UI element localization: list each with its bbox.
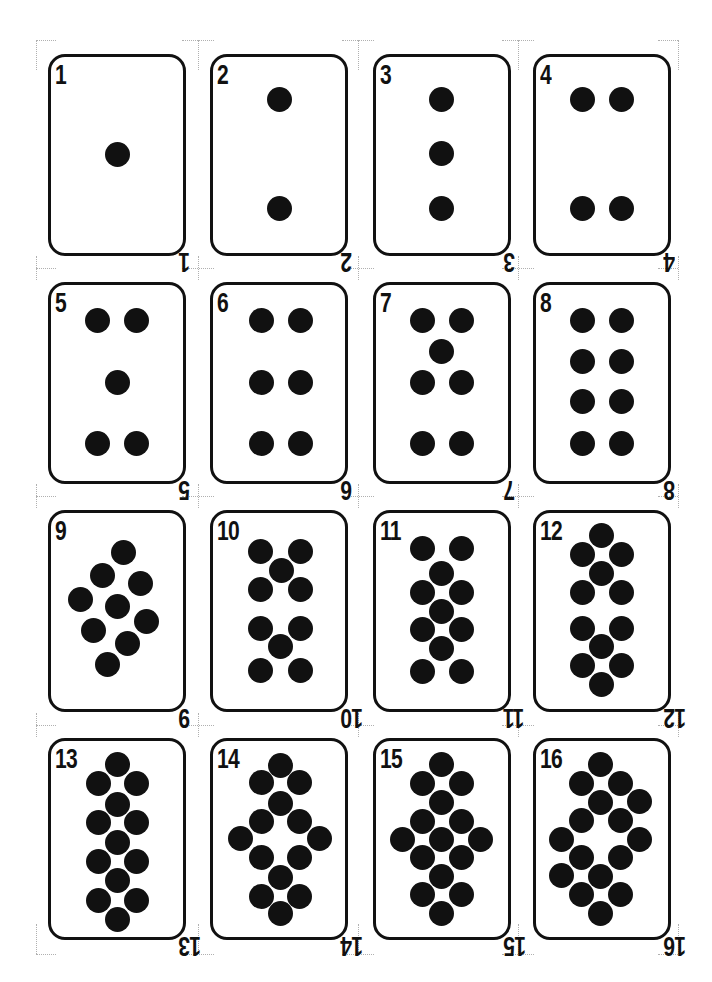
pip-dot-icon [287, 809, 312, 834]
pip-dot-icon [410, 580, 435, 605]
crop-mark [518, 40, 519, 70]
pip-dot-icon [429, 196, 454, 221]
card-index-top: 4 [540, 62, 551, 89]
pip-dot-icon [268, 865, 293, 890]
pip-dot-icon [269, 558, 294, 583]
card-5: 55 [48, 282, 186, 484]
pip-dot-icon [128, 571, 153, 596]
crop-mark [358, 40, 359, 70]
pip-dot-icon [410, 882, 435, 907]
pip-dot-icon [68, 587, 93, 612]
pip-dot-icon [86, 771, 111, 796]
pip-dot-icon [105, 752, 130, 777]
pip-dot-icon [248, 539, 273, 564]
pip-dot-icon [449, 370, 474, 395]
pip-dot-icon [248, 577, 273, 602]
card-index-bottom: 10 [341, 704, 363, 731]
card-index-top: 12 [540, 518, 562, 545]
pip-dot-icon [608, 882, 633, 907]
pip-dot-icon [90, 563, 115, 588]
pip-dot-icon [249, 809, 274, 834]
pip-dot-icon [287, 770, 312, 795]
pip-dot-icon [288, 431, 313, 456]
crop-mark [502, 40, 534, 41]
crop-mark [678, 484, 679, 508]
pip-dot-icon [429, 87, 454, 112]
crop-mark [342, 40, 374, 41]
card-6: 66 [210, 282, 348, 484]
pip-dot-icon [85, 431, 110, 456]
pip-dot-icon [609, 87, 634, 112]
pip-dot-icon [390, 827, 415, 852]
pip-dot-icon [267, 87, 292, 112]
card-index-top: 13 [55, 746, 77, 773]
pip-dot-icon [429, 827, 454, 852]
pip-dot-icon [449, 659, 474, 684]
pip-dot-icon [570, 389, 595, 414]
card-index-bottom: 9 [179, 704, 190, 731]
pip-dot-icon [115, 631, 140, 656]
pip-dot-icon [249, 370, 274, 395]
card-index-top: 8 [540, 290, 551, 317]
card-index-bottom: 12 [664, 704, 686, 731]
pip-dot-icon [249, 845, 274, 870]
crop-mark [658, 40, 678, 41]
pip-dot-icon [105, 594, 130, 619]
card-index-top: 7 [380, 290, 391, 317]
pip-dot-icon [410, 617, 435, 642]
card-index-top: 15 [380, 746, 402, 773]
crop-mark [678, 256, 679, 280]
crop-mark [678, 40, 679, 70]
pip-dot-icon [410, 809, 435, 834]
card-7: 77 [373, 282, 511, 484]
pip-dot-icon [288, 658, 313, 683]
pip-dot-icon [105, 830, 130, 855]
pip-dot-icon [429, 790, 454, 815]
card-index-bottom: 4 [664, 248, 675, 275]
pip-dot-icon [111, 540, 136, 565]
pip-dot-icon [124, 888, 149, 913]
pip-dot-icon [588, 790, 613, 815]
card-index-bottom: 14 [341, 932, 363, 959]
card-index-bottom: 3 [504, 248, 515, 275]
pip-dot-icon [85, 308, 110, 333]
crop-mark [36, 725, 56, 726]
crop-mark [36, 496, 56, 497]
pip-dot-icon [609, 653, 634, 678]
pip-dot-icon [608, 845, 633, 870]
card-index-bottom: 11 [504, 704, 525, 731]
pip-dot-icon [569, 771, 594, 796]
crop-mark [182, 40, 214, 41]
pip-dot-icon [608, 808, 633, 833]
pip-dot-icon [288, 370, 313, 395]
card-10: 1010 [210, 510, 348, 712]
card-index-bottom: 6 [341, 476, 352, 503]
pip-dot-icon [449, 580, 474, 605]
pip-dot-icon [468, 827, 493, 852]
pip-dot-icon [429, 561, 454, 586]
pip-dot-icon [570, 308, 595, 333]
crop-mark [198, 40, 199, 70]
pip-dot-icon [588, 864, 613, 889]
pip-dot-icon [608, 771, 633, 796]
pip-dot-icon [268, 791, 293, 816]
card-8: 88 [533, 282, 671, 484]
pip-dot-icon [288, 539, 313, 564]
pip-dot-icon [609, 542, 634, 567]
pip-dot-icon [249, 308, 274, 333]
card-index-top: 6 [217, 290, 228, 317]
pip-dot-icon [570, 653, 595, 678]
pip-dot-icon [570, 196, 595, 221]
card-3: 33 [373, 54, 511, 256]
crop-mark [36, 40, 37, 70]
pip-dot-icon [249, 770, 274, 795]
pip-dot-icon [105, 907, 130, 932]
pip-dot-icon [267, 196, 292, 221]
pip-dot-icon [81, 618, 106, 643]
pip-dot-icon [287, 845, 312, 870]
pip-dot-icon [429, 636, 454, 661]
card-9: 99 [48, 510, 186, 712]
pip-dot-icon [588, 901, 613, 926]
pip-dot-icon [86, 810, 111, 835]
pip-dot-icon [124, 308, 149, 333]
